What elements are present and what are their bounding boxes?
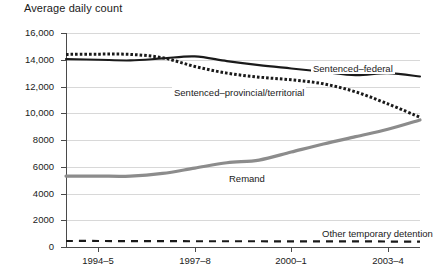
series-line [66,241,420,242]
series-label-4: Other temporary detention [320,228,435,239]
series-label-1: Sentenced–federal [311,63,395,74]
series-label-2: Sentenced–provincial/territorial [172,87,306,98]
series-line [66,120,420,176]
series-label-3: Remand [227,173,267,184]
